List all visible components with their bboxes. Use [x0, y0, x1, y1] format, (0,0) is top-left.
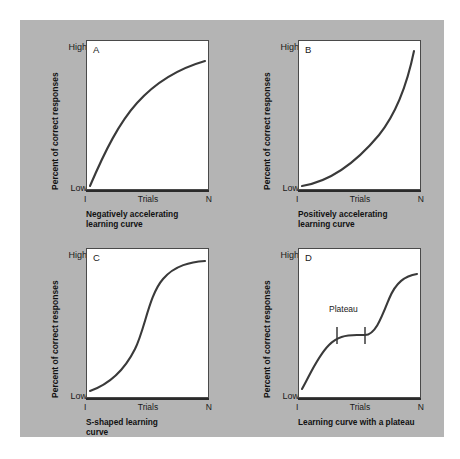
curve-path-c	[90, 261, 205, 391]
y-axis-title-a: Percent of correct responses	[50, 72, 60, 190]
figure-panel: High Low Percent of correct responses A …	[20, 20, 444, 437]
panel-a: High Low Percent of correct responses A …	[20, 20, 232, 228]
curve-path-a	[90, 61, 205, 186]
y-axis-title-b-wrap: Percent of correct responses	[232, 20, 292, 200]
x-tick-row-a: I Trials N	[80, 194, 216, 206]
x-tick-end-a: N	[206, 194, 212, 204]
x-axis-line-d	[298, 398, 421, 400]
plateau-annotation-label: Plateau	[329, 304, 358, 314]
panel-letter-d: D	[305, 252, 312, 263]
panel-d: High Low Percent of correct responses Pl…	[232, 228, 444, 436]
panel-letter-b: B	[305, 44, 311, 55]
curve-svg-c	[87, 249, 208, 397]
panel-letter-a: A	[93, 44, 99, 55]
x-tick-row-d: I Trials N	[292, 402, 428, 414]
caption-a-line1: Negatively accelerating	[86, 209, 178, 219]
y-axis-title-c: Percent of correct responses	[50, 280, 60, 398]
y-axis-title-c-wrap: Percent of correct responses	[20, 228, 80, 408]
plot-box-d: Plateau	[298, 248, 421, 398]
x-axis-line-a	[86, 190, 209, 192]
caption-b: Positively accelerating learning curve	[298, 209, 438, 229]
x-tick-end-b: N	[418, 194, 424, 204]
learning-curve-grid: High Low Percent of correct responses A …	[20, 20, 444, 437]
panel-letter-c: C	[93, 252, 100, 263]
x-tick-end-c: N	[206, 402, 212, 412]
x-tick-row-c: I Trials N	[80, 402, 216, 414]
plot-box-b	[298, 40, 421, 190]
panel-b: High Low Percent of correct responses B …	[232, 20, 444, 228]
y-axis-title-d-wrap: Percent of correct responses	[232, 228, 292, 408]
caption-c-line1: S-shaped learning	[86, 417, 158, 427]
x-axis-title-c: Trials	[80, 402, 216, 412]
y-axis-title-b: Percent of correct responses	[262, 72, 272, 190]
x-axis-title-d: Trials	[292, 402, 428, 412]
curve-svg-d	[299, 249, 420, 397]
caption-c: S-shaped learning curve	[86, 417, 226, 437]
panel-c: High Low Percent of correct responses C …	[20, 228, 232, 436]
caption-d-line1: Learning curve with a plateau	[298, 417, 415, 427]
x-axis-line-c	[86, 398, 209, 400]
caption-a: Negatively accelerating learning curve	[86, 209, 226, 229]
curve-path-b	[302, 51, 414, 186]
caption-b-line1: Positively accelerating	[298, 209, 387, 219]
caption-d: Learning curve with a plateau	[298, 417, 438, 427]
y-axis-title-a-wrap: Percent of correct responses	[20, 20, 80, 200]
y-axis-title-d: Percent of correct responses	[262, 280, 272, 398]
x-axis-line-b	[298, 190, 421, 192]
curve-path-d	[302, 274, 417, 389]
plot-box-a	[86, 40, 209, 190]
x-tick-row-b: I Trials N	[292, 194, 428, 206]
curve-svg-b	[299, 41, 420, 189]
curve-svg-a	[87, 41, 208, 189]
x-axis-title-a: Trials	[80, 194, 216, 204]
caption-c-line2: curve	[86, 427, 226, 437]
plot-box-c	[86, 248, 209, 398]
x-axis-title-b: Trials	[292, 194, 428, 204]
x-tick-end-d: N	[418, 402, 424, 412]
